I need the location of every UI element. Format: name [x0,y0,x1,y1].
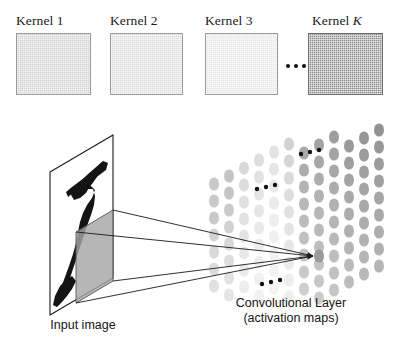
input-image-plane [50,135,113,315]
activation-map-column [359,131,369,280]
activation-map-column [269,145,279,294]
conv-layer-label: Convolutional Layer (activation maps) [196,296,386,326]
activation-map-column [254,153,264,302]
projection-line-lower [113,256,313,281]
activation-map-column [284,137,294,303]
conv-layer-diagram [0,0,393,339]
activation-map-column [374,123,384,272]
activation-map-column [239,161,249,293]
target-activation-unit [314,249,324,262]
activation-map-column [329,130,339,296]
activation-map-column [314,138,324,304]
cnn-architecture-figure: Kernel 1 Kernel 2 Kernel 3 Kernel K [0,0,393,339]
input-image-label: Input image [18,318,148,333]
activation-map-column [299,146,309,295]
activation-maps-grid [209,123,384,304]
activation-map-column [344,139,354,288]
